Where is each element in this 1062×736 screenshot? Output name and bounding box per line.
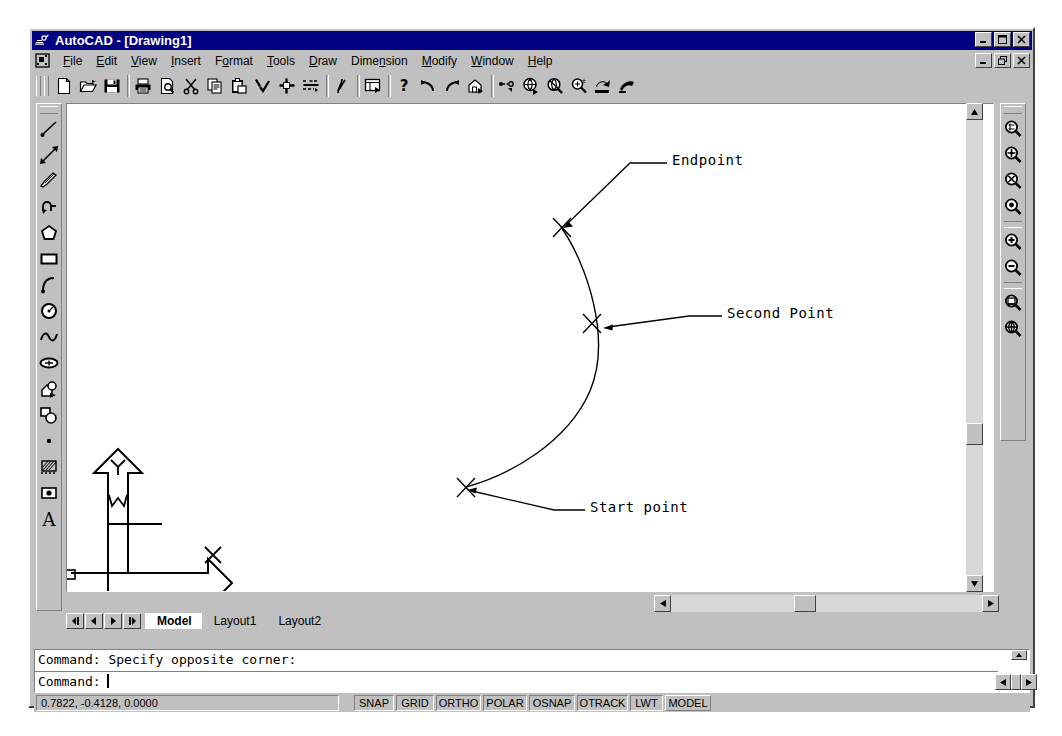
mdi-restore-button[interactable]	[994, 53, 1011, 68]
menu-item-dimension[interactable]: Dimension	[344, 53, 415, 69]
scroll-down-button[interactable]	[966, 575, 983, 592]
pen-draworder-icon[interactable]	[330, 75, 354, 98]
command-window[interactable]: Command: Specify opposite corner: Comman…	[34, 649, 1030, 693]
toolbar-grip-2[interactable]	[44, 76, 49, 96]
minimize-button[interactable]	[975, 32, 992, 47]
paste-icon[interactable]	[227, 75, 251, 98]
menu-item-view[interactable]: View	[124, 53, 164, 69]
close-button[interactable]	[1013, 32, 1030, 47]
pan-realtime-icon[interactable]	[519, 75, 543, 98]
command-scroll-right-button[interactable]	[1021, 674, 1037, 690]
multiline-text-icon[interactable]: A	[38, 506, 60, 532]
print-preview-icon[interactable]	[155, 75, 179, 98]
menu-item-file[interactable]: File	[56, 53, 89, 69]
copy-icon[interactable]	[203, 75, 227, 98]
zoom-window-icon-2[interactable]	[1002, 116, 1024, 142]
menu-item-edit[interactable]: Edit	[89, 53, 124, 69]
status-toggle-model[interactable]: MODEL	[665, 695, 711, 711]
make-block-icon[interactable]	[38, 402, 60, 428]
redo-arrow-icon[interactable]	[440, 75, 464, 98]
undo-arrow-icon[interactable]	[416, 75, 440, 98]
zoom-all-icon[interactable]	[1002, 290, 1024, 316]
insert-block-icon-2[interactable]	[38, 376, 60, 402]
printer-icon[interactable]	[131, 75, 155, 98]
menu-item-modify[interactable]: Modify	[415, 53, 464, 69]
named-views-icon[interactable]	[615, 75, 639, 98]
canvas-horizontal-scrollbar[interactable]	[654, 595, 999, 612]
scroll-left-button[interactable]	[654, 595, 671, 612]
model-space-canvas[interactable]: Endpoint Second Point Start point	[67, 104, 993, 591]
point-icon[interactable]	[38, 428, 60, 454]
menu-item-window[interactable]: Window	[464, 53, 521, 69]
zoom-scale-icon[interactable]	[1002, 168, 1024, 194]
tab-layout2[interactable]: Layout2	[266, 613, 331, 629]
mdi-minimize-button[interactable]	[975, 53, 992, 68]
scroll-right-button[interactable]	[982, 595, 999, 612]
command-input-line[interactable]: Command:	[35, 672, 998, 692]
command-scroll-left-button[interactable]	[995, 674, 1011, 690]
region-icon[interactable]	[38, 480, 60, 506]
save-disk-icon[interactable]	[100, 75, 124, 98]
menu-item-draw[interactable]: Draw	[302, 53, 344, 69]
vertical-scroll-thumb[interactable]	[966, 423, 983, 445]
document-control-icon[interactable]	[35, 53, 51, 69]
vertical-scroll-track[interactable]	[966, 120, 983, 575]
rectangle-icon[interactable]	[38, 246, 60, 272]
command-window-scrollbar[interactable]	[995, 650, 1028, 692]
toolbar-grip[interactable]	[36, 76, 41, 96]
scroll-up-button[interactable]	[966, 103, 983, 120]
status-toggle-ortho[interactable]: ORTHO	[436, 695, 481, 711]
status-toggle-osnap[interactable]: OSNAP	[529, 695, 575, 711]
zoom-realtime-icon[interactable]	[543, 75, 567, 98]
canvas-vertical-scrollbar[interactable]	[966, 103, 983, 592]
horizontal-scroll-track[interactable]	[671, 595, 982, 612]
open-folder-icon[interactable]	[76, 75, 100, 98]
status-toggle-lwt[interactable]: LWT	[630, 695, 663, 711]
blocks-palette-icon[interactable]	[361, 75, 385, 98]
menu-item-insert[interactable]: Insert	[164, 53, 208, 69]
horizontal-scroll-thumb[interactable]	[794, 595, 816, 612]
zoom-center-icon[interactable]	[1002, 194, 1024, 220]
maximize-button[interactable]	[994, 32, 1011, 47]
match-properties-icon[interactable]	[251, 75, 275, 98]
status-toggle-otrack[interactable]: OTRACK	[577, 695, 628, 711]
prev-tab-button[interactable]	[85, 613, 103, 629]
tab-model[interactable]: Model	[145, 613, 202, 629]
zoom-previous-icon[interactable]	[591, 75, 615, 98]
zoom-in-icon[interactable]	[1002, 229, 1024, 255]
zoom-toolbar-grip[interactable]	[1004, 106, 1022, 114]
tab-layout1[interactable]: Layout1	[202, 613, 267, 629]
mdi-close-button[interactable]	[1013, 53, 1030, 68]
hyperlink-icon[interactable]	[495, 75, 519, 98]
first-tab-button[interactable]	[66, 613, 84, 629]
zoom-window-icon[interactable]: ±	[567, 75, 591, 98]
multiline-icon[interactable]	[38, 194, 60, 220]
menu-item-tools[interactable]: Tools	[260, 53, 302, 69]
draw-toolbar-grip[interactable]	[40, 106, 58, 114]
menu-item-format[interactable]: Format	[208, 53, 260, 69]
properties-icon[interactable]	[275, 75, 299, 98]
next-tab-button[interactable]	[104, 613, 122, 629]
circle-icon[interactable]	[38, 298, 60, 324]
line-icon[interactable]	[38, 116, 60, 142]
arc-icon[interactable]	[38, 272, 60, 298]
help-question-icon[interactable]: ?	[392, 75, 416, 98]
command-scroll-up-button[interactable]	[1011, 650, 1027, 660]
sheet-set-icon[interactable]	[299, 75, 323, 98]
last-tab-button[interactable]	[123, 613, 141, 629]
zoom-dynamic-icon[interactable]	[1002, 142, 1024, 168]
spline-icon[interactable]	[38, 324, 60, 350]
hatch-icon[interactable]	[38, 454, 60, 480]
ellipse-icon[interactable]	[38, 350, 60, 376]
scissors-cut-icon[interactable]	[179, 75, 203, 98]
status-toggle-snap[interactable]: SNAP	[354, 695, 394, 711]
zoom-out-icon[interactable]	[1002, 255, 1024, 281]
new-file-icon[interactable]	[52, 75, 76, 98]
construction-line-icon[interactable]	[38, 142, 60, 168]
coordinates-display[interactable]: 0.7822, -0.4128, 0.0000	[36, 695, 339, 711]
menu-item-help[interactable]: Help	[521, 53, 560, 69]
status-toggle-polar[interactable]: POLAR	[483, 695, 527, 711]
polygon-icon[interactable]	[38, 220, 60, 246]
command-scroll-thumb[interactable]	[1011, 674, 1021, 690]
zoom-extents-icon[interactable]	[1002, 316, 1024, 342]
